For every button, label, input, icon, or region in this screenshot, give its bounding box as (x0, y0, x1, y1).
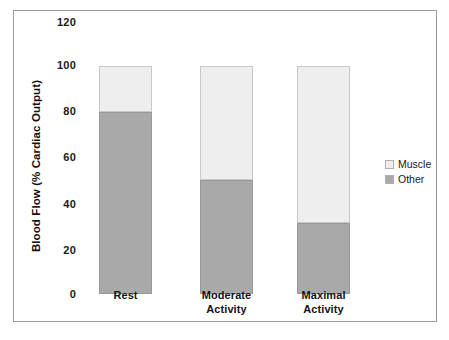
bar-group-moderate (200, 66, 253, 294)
bar-segment-maximal-muscle[interactable] (297, 66, 350, 223)
category-label-moderate-line2: Activity (206, 303, 247, 315)
bar-segment-moderate-muscle[interactable] (200, 66, 253, 180)
legend-label-muscle: Muscle (398, 159, 431, 170)
y-tick-label-60: 60 (42, 152, 76, 163)
y-tick-label-20: 20 (42, 245, 76, 256)
y-tick-label-0: 0 (42, 289, 76, 300)
category-label-maximal: MaximalActivity (283, 288, 364, 316)
category-label-maximal-line1: Maximal (301, 289, 345, 301)
bar-stack-maximal (297, 66, 350, 294)
category-label-moderate-line1: Moderate (202, 289, 252, 301)
bar-stack-rest (99, 66, 152, 294)
legend-label-other: Other (398, 174, 424, 185)
legend-swatch-muscle-icon (385, 160, 394, 169)
y-tick-label-80: 80 (42, 106, 76, 117)
y-tick-label-40: 40 (42, 199, 76, 210)
category-label-moderate: ModerateActivity (186, 288, 267, 316)
bar-group-rest (99, 66, 152, 294)
category-label-maximal-line2: Activity (303, 303, 344, 315)
plot-area: Blood Flow (% Cardiac Output) 120 100 80… (0, 0, 449, 340)
chart-legend: Muscle Other (385, 158, 445, 188)
bar-segment-maximal-other[interactable] (297, 223, 350, 294)
category-label-rest: Rest (85, 288, 166, 302)
bar-segment-rest-other[interactable] (99, 112, 152, 294)
bar-group-maximal (297, 66, 350, 294)
chart-figure: Blood Flow (% Cardiac Output) 120 100 80… (0, 0, 449, 340)
y-tick-label-100: 100 (42, 60, 76, 71)
y-axis-title: Blood Flow (% Cardiac Output) (30, 61, 42, 271)
legend-item-muscle[interactable]: Muscle (385, 158, 445, 171)
bar-segment-moderate-other[interactable] (200, 180, 253, 294)
legend-item-other[interactable]: Other (385, 173, 445, 186)
legend-swatch-other-icon (385, 175, 394, 184)
bar-segment-rest-muscle[interactable] (99, 66, 152, 112)
y-tick-label-120: 120 (42, 17, 76, 28)
bar-stack-moderate (200, 66, 253, 294)
